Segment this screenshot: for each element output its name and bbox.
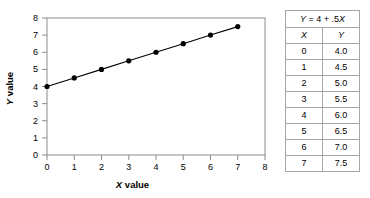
y-tick-label-4: 4	[18, 82, 38, 92]
cell-x: 4	[286, 108, 323, 124]
data-point	[153, 50, 158, 55]
y-tick-label-8: 8	[18, 13, 38, 23]
x-tick-label-6: 6	[201, 162, 221, 172]
equation-rhs: X	[339, 14, 345, 24]
cell-x: 1	[286, 60, 323, 76]
y-tick-label-5: 5	[18, 64, 38, 74]
table-row: 7 7.5	[286, 156, 360, 172]
x-tick-marks	[47, 155, 265, 160]
cell-y: 5.5	[323, 92, 360, 108]
plot-frame	[47, 18, 265, 155]
x-axis-title-text: value	[122, 179, 149, 190]
column-header-y: Y	[323, 28, 360, 44]
x-tick-label-5: 5	[173, 162, 193, 172]
x-tick-label-8: 8	[255, 162, 275, 172]
y-tick-label-3: 3	[18, 99, 38, 109]
data-point	[235, 24, 240, 29]
table-row: 4 6.0	[286, 108, 360, 124]
figure: 0 1 2 3 4 5 6 7 8 0 1 2 3 4 5 6 7 8 X va…	[0, 0, 370, 198]
cell-x: 3	[286, 92, 323, 108]
data-point	[126, 58, 131, 63]
table-row: 3 5.5	[286, 92, 360, 108]
table-row: 0 4.0	[286, 44, 360, 60]
y-tick-label-7: 7	[18, 30, 38, 40]
cell-y: 7.5	[323, 156, 360, 172]
cell-x: 6	[286, 140, 323, 156]
data-point	[208, 33, 213, 38]
cell-y: 4.0	[323, 44, 360, 60]
x-tick-label-0: 0	[37, 162, 57, 172]
y-tick-label-6: 6	[18, 47, 38, 57]
x-tick-label-1: 1	[64, 162, 84, 172]
table-row: 5 6.5	[286, 124, 360, 140]
y-tick-label-1: 1	[18, 133, 38, 143]
y-axis-title-text: value	[4, 72, 15, 99]
cell-y: 6.5	[323, 124, 360, 140]
equation-cell: Y = 4 + .5X	[286, 11, 360, 28]
data-point	[72, 75, 77, 80]
x-axis-title: X value	[0, 179, 265, 190]
table-row: 2 5.0	[286, 76, 360, 92]
x-tick-label-2: 2	[92, 162, 112, 172]
table-header-row: X Y	[286, 28, 360, 44]
y-axis-title-variable: Y	[4, 99, 15, 105]
data-point	[99, 67, 104, 72]
cell-x: 2	[286, 76, 323, 92]
cell-y: 7.0	[323, 140, 360, 156]
table-equation-row: Y = 4 + .5X	[286, 11, 360, 28]
cell-y: 4.5	[323, 60, 360, 76]
data-point	[44, 84, 49, 89]
y-tick-label-2: 2	[18, 116, 38, 126]
column-header-x: X	[286, 28, 323, 44]
cell-y: 6.0	[323, 108, 360, 124]
y-axis-title: Y value	[4, 59, 15, 119]
x-tick-label-3: 3	[119, 162, 139, 172]
table-row: 1 4.5	[286, 60, 360, 76]
y-tick-label-0: 0	[18, 150, 38, 160]
cell-y: 5.0	[323, 76, 360, 92]
x-tick-label-4: 4	[146, 162, 166, 172]
cell-x: 7	[286, 156, 323, 172]
table-row: 6 7.0	[286, 140, 360, 156]
value-table: Y = 4 + .5X X Y 0 4.0 1 4.5 2 5.0 3 5.5	[285, 10, 360, 172]
equation-middle: = 4 + .5	[306, 14, 339, 24]
scatter-line-chart: 0 1 2 3 4 5 6 7 8 0 1 2 3 4 5 6 7 8 X va…	[0, 0, 275, 198]
cell-x: 0	[286, 44, 323, 60]
data-point	[181, 41, 186, 46]
x-tick-label-7: 7	[228, 162, 248, 172]
cell-x: 5	[286, 124, 323, 140]
